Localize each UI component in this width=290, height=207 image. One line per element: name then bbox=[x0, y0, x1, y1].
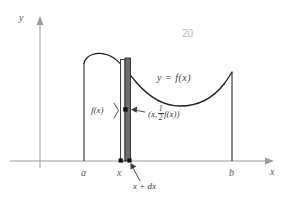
curve-equation-label: y = f(x) bbox=[157, 72, 191, 83]
dx-callout-arrow bbox=[130, 163, 140, 181]
y-axis-arrowhead bbox=[37, 16, 44, 25]
y-axis-label: y bbox=[19, 12, 23, 23]
calculus-figure: y x 20 y = f(x) f(x) (x, 12f(x)) a x b x… bbox=[0, 0, 290, 207]
y-axis bbox=[37, 16, 44, 168]
tick-label-x: x bbox=[117, 167, 121, 178]
x-axis-arrowhead bbox=[265, 158, 274, 165]
height-label-fx: f(x) bbox=[91, 105, 104, 115]
fraction-numerator: 1 bbox=[158, 105, 164, 113]
figure-number: 20 bbox=[182, 28, 193, 39]
x-axis-label: x bbox=[270, 166, 274, 177]
figure-canvas bbox=[0, 0, 290, 207]
coordinate-callout-arrow bbox=[131, 107, 145, 113]
fraction-denominator: 2 bbox=[158, 113, 164, 122]
base-dot-x-plus-dx bbox=[127, 158, 131, 162]
midpoint-marker bbox=[123, 107, 127, 111]
tick-label-a: a bbox=[81, 167, 86, 178]
tick-label-b: b bbox=[229, 167, 234, 178]
dx-label: x + dx bbox=[133, 181, 156, 191]
coord-open-paren: (x, bbox=[148, 109, 157, 119]
coord-close: f(x)) bbox=[164, 109, 180, 119]
one-half-fraction: 12 bbox=[158, 105, 164, 122]
height-brace bbox=[114, 103, 119, 118]
midpoint-coordinate-label: (x, 12f(x)) bbox=[148, 105, 180, 122]
base-dot-x bbox=[119, 158, 123, 162]
x-axis bbox=[10, 158, 274, 165]
